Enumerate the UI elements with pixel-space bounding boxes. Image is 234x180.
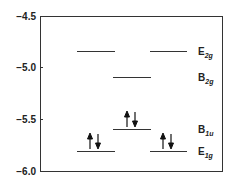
label-e1g: E1g — [198, 146, 214, 160]
y-tick-label: −4.5 — [16, 11, 36, 22]
label-e2g: E2g — [198, 46, 214, 60]
plot-frame — [41, 17, 223, 172]
electron-pair-e1g-right — [161, 133, 174, 149]
electron-pair-b1u — [125, 111, 138, 127]
y-tick-label: −6.0 — [16, 166, 36, 177]
y-tick-label: −5.5 — [16, 114, 36, 125]
label-b2g: B2g — [198, 72, 214, 86]
energy-level-diagram: −4.5 −5.0 −5.5 −6.0 E2g B2g B1u E1g — [0, 0, 234, 180]
electron-pair-e1g-left — [88, 133, 101, 149]
label-b1u: B1u — [198, 124, 214, 137]
y-tick-label: −5.0 — [16, 62, 36, 73]
